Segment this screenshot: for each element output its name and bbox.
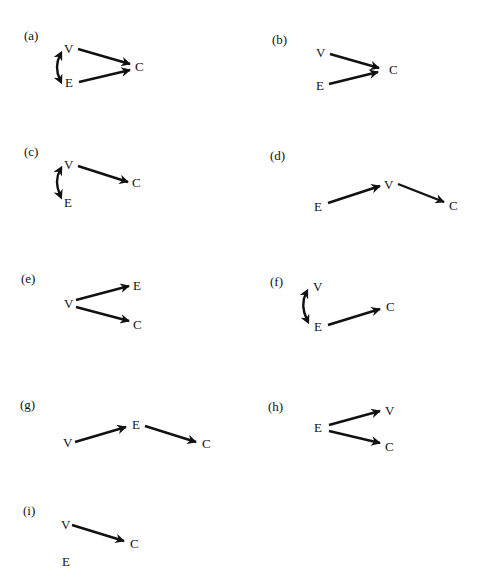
edge-d-v-c: [398, 184, 444, 202]
node-e: E: [314, 421, 322, 434]
node-e: E: [132, 418, 140, 431]
node-e: E: [65, 76, 73, 89]
node-v: V: [64, 158, 73, 171]
panel-label: (c): [24, 144, 38, 160]
panel-label: (d): [270, 148, 285, 164]
panel-label: (b): [272, 32, 287, 48]
panel-label: (g): [20, 397, 35, 413]
node-c: C: [202, 437, 211, 450]
edge-h-e-v: [329, 411, 380, 425]
edge-g-e-c: [145, 426, 196, 442]
node-e: E: [316, 79, 324, 92]
node-v: V: [64, 297, 73, 310]
panel-label: (h): [268, 399, 283, 415]
node-e: E: [62, 555, 70, 568]
edge-e-v-e: [76, 286, 129, 300]
node-c: C: [385, 440, 394, 453]
node-e: E: [133, 279, 141, 292]
edge-h-e-c: [329, 431, 380, 443]
node-c: C: [389, 63, 398, 76]
node-e: E: [64, 196, 72, 209]
edge-b-e-c: [329, 72, 378, 84]
panel-label: (i): [23, 503, 35, 519]
panel-label: (f): [270, 274, 283, 290]
node-c: C: [133, 318, 142, 331]
node-v: V: [313, 280, 322, 293]
edge-e-v-c: [76, 307, 129, 321]
node-v: V: [61, 518, 70, 531]
node-v: V: [385, 404, 394, 417]
node-v: V: [384, 178, 393, 191]
node-c: C: [386, 300, 395, 313]
node-e: E: [314, 200, 322, 213]
node-v: V: [63, 436, 72, 449]
edge-i-v-c: [72, 525, 124, 541]
edge-c-v-c: [78, 166, 128, 182]
edge-d-e-v: [328, 186, 380, 203]
node-v: V: [316, 46, 325, 59]
node-c: C: [130, 537, 139, 550]
node-v: V: [64, 42, 73, 55]
node-c: C: [449, 199, 458, 212]
edge-f-e-c: [328, 309, 380, 325]
node-c: C: [135, 60, 144, 73]
node-c: C: [132, 176, 141, 189]
node-e: E: [314, 320, 322, 333]
edge-g-v-e: [75, 427, 126, 442]
panel-label: (e): [21, 271, 35, 287]
edge-a-v-c: [78, 49, 130, 64]
edge-b-v-c: [330, 54, 379, 68]
edge-a-v-e-bidirected: [57, 55, 60, 80]
edge-a-e-c: [79, 70, 130, 82]
edge-f-v-e-bidirected: [303, 293, 307, 320]
panel-label: (a): [24, 28, 38, 44]
edge-c-v-e-bidirected: [57, 170, 60, 195]
